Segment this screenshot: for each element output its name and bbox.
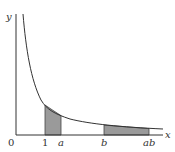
shaded-region-1-to-a bbox=[45, 105, 61, 135]
x-axis-label: x bbox=[165, 129, 171, 140]
tick-label-ab: ab bbox=[143, 137, 155, 148]
hyperbola-diagram: y x 0 1 a b ab bbox=[0, 0, 175, 152]
tick-label-b: b bbox=[101, 137, 107, 148]
curve-reciprocal bbox=[23, 14, 163, 129]
origin-label: 0 bbox=[8, 137, 14, 148]
tick-label-a: a bbox=[58, 137, 64, 148]
y-axis-label: y bbox=[5, 11, 12, 22]
tick-label-1: 1 bbox=[42, 137, 48, 148]
